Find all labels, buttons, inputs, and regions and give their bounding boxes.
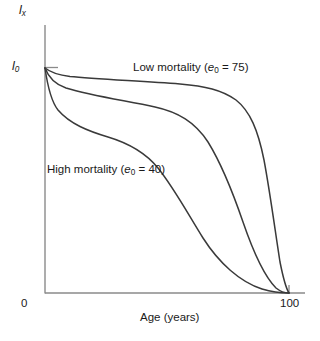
annotation-high-mortality-subscript: 0 xyxy=(131,168,136,177)
x-axis-title: Age (years) xyxy=(140,312,199,324)
annotation-high-mortality-prefix: High mortality ( xyxy=(47,163,124,175)
annotation-low-mortality-prefix: Low mortality ( xyxy=(133,61,208,73)
y-axis-title: lx xyxy=(19,4,26,17)
annotation-low-mortality-subscript: 0 xyxy=(214,66,219,75)
x-axis-tick-label-0: 0 xyxy=(21,298,27,310)
y-axis-origin-subscript: 0 xyxy=(15,65,20,74)
x-axis-tick-label-100: 100 xyxy=(280,298,299,310)
annotation-low-mortality: Low mortality (e0 = 75) xyxy=(133,62,248,74)
annotation-high-mortality: High mortality (e0 = 40) xyxy=(47,164,165,176)
y-axis-origin-label: l0 xyxy=(12,60,19,73)
annotation-low-mortality-suffix: = 75) xyxy=(219,61,249,73)
curve-high-mortality xyxy=(45,68,289,293)
annotation-high-mortality-suffix: = 40) xyxy=(135,163,165,175)
survivorship-curve-figure: lx l0 0 100 Age (years) Low mortality (e… xyxy=(0,0,320,341)
annotation-high-mortality-symbol: e xyxy=(124,163,130,175)
y-axis-title-subscript: x xyxy=(22,9,26,18)
